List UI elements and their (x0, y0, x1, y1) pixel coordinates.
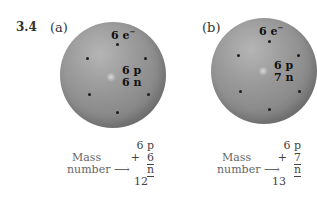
electron-icon (237, 54, 240, 57)
nucleus-label-b: 6 p 7 n (274, 60, 293, 84)
neutron-count-b: 7 n (274, 72, 293, 84)
number-word-a: number (67, 163, 110, 176)
electron-icon (268, 108, 271, 111)
mass-number-a: 12 (122, 176, 154, 188)
mass-label-2-a: number ⟶ (67, 164, 130, 176)
panel-a-label: (a) (50, 20, 68, 35)
electron-icon (144, 57, 147, 60)
nucleus-label-a: 6 p 6 n (122, 65, 141, 89)
number-word-b: number (217, 163, 260, 176)
electron-charge-b: − (277, 23, 283, 32)
electron-charge-a: − (129, 27, 135, 36)
electron-label-a: 6 e− (111, 27, 135, 42)
electron-icon (147, 93, 150, 96)
electron-icon (88, 93, 91, 96)
electron-icon (268, 40, 271, 43)
electron-count-b: 6 e (259, 25, 277, 38)
electron-count-a: 6 e (111, 29, 129, 42)
arrow-icon: ⟶ (114, 163, 130, 176)
electron-icon (116, 111, 119, 114)
electron-icon (297, 54, 300, 57)
sum-neutrons-b: 7 n (294, 151, 301, 177)
electron-label-b: 6 e− (259, 23, 283, 38)
nucleus-icon (258, 66, 268, 76)
electron-icon (239, 90, 242, 93)
mass-caption-b: Mass number ⟶ (217, 152, 280, 176)
nucleus-icon (106, 72, 116, 82)
electron-icon (86, 57, 89, 60)
neutron-count-a: 6 n (122, 77, 141, 89)
panel-b-label: (b) (202, 20, 220, 35)
plus-sign-a: + (131, 151, 140, 164)
mass-label-2-b: number ⟶ (217, 164, 280, 176)
electron-icon (116, 43, 119, 46)
sum-neutrons-a: 6 n (147, 151, 154, 177)
electron-icon (298, 90, 301, 93)
mass-number-b: 13 (269, 176, 301, 188)
arrow-icon: ⟶ (264, 163, 280, 176)
figure-number: 3.4 (16, 20, 37, 34)
mass-caption-a: Mass number ⟶ (67, 152, 130, 176)
